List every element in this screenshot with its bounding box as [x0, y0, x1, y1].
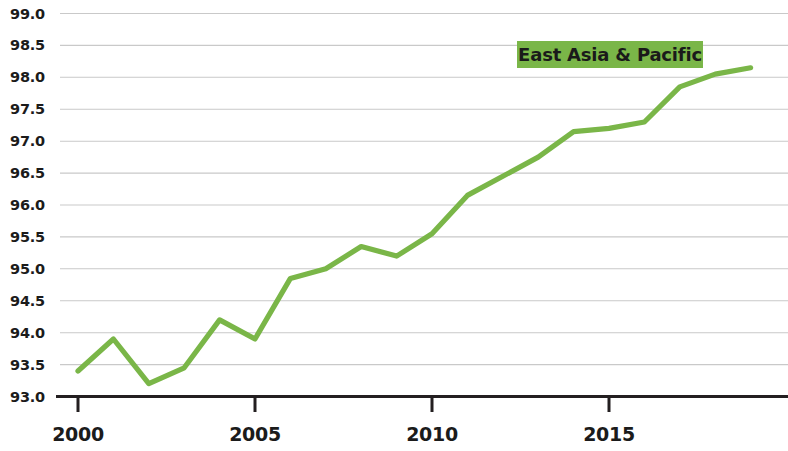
y-axis-tick-label: 97.5 [10, 101, 45, 117]
y-axis-tick-label: 93.0 [10, 389, 45, 405]
legend-label: East Asia & Pacific [518, 44, 702, 65]
y-axis-tick-label: 96.5 [10, 165, 45, 181]
y-axis-tick-label: 98.0 [10, 69, 45, 85]
y-axis-tick-label: 99.0 [10, 6, 45, 22]
y-axis-tick-label: 94.5 [10, 293, 45, 309]
x-axis-tick-label: 2010 [406, 423, 458, 445]
x-axis-tick-label: 2000 [52, 423, 104, 445]
legend-east-asia-pacific: East Asia & Pacific [517, 41, 703, 68]
y-axis-tick-label: 98.5 [10, 37, 45, 53]
y-axis-tick-label: 97.0 [10, 133, 45, 149]
y-axis-tick-label: 94.0 [10, 325, 45, 341]
chart-container: 99.098.598.097.597.096.596.095.595.094.5… [0, 0, 788, 451]
y-axis-tick-label: 95.5 [10, 229, 45, 245]
x-axis-tick-label: 2005 [229, 423, 281, 445]
x-axis-tick-label: 2015 [583, 423, 635, 445]
y-axis-tick-label: 95.0 [10, 261, 45, 277]
y-axis-tick-label: 93.5 [10, 357, 45, 373]
line-chart: 99.098.598.097.597.096.596.095.595.094.5… [0, 0, 788, 451]
y-axis-tick-label: 96.0 [10, 197, 45, 213]
